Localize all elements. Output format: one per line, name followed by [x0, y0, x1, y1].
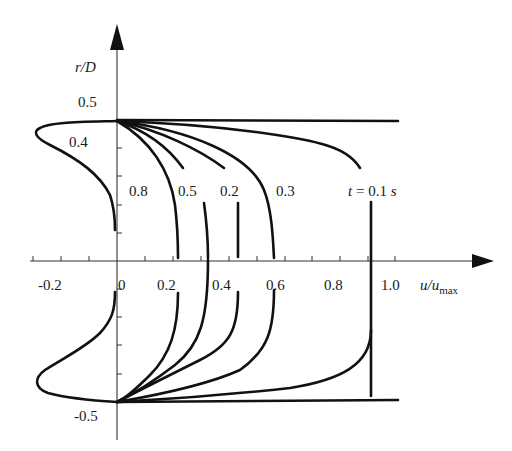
velocity-profile-chart: -0.2 0 0.2 0.4 0.6 0.8 1.0 u/umax r/D 0.… — [0, 0, 512, 451]
curve-t-0.5 — [204, 203, 208, 258]
curve-label-0.2: 0.2 — [220, 183, 239, 199]
x-axis-label: u/umax — [420, 277, 459, 296]
wall-top-line — [117, 120, 398, 121]
y-tick-label: 0.5 — [78, 94, 97, 110]
x-ticks — [33, 256, 395, 261]
y-axis-arrow-icon — [110, 24, 124, 50]
x-tick-label: 0.4 — [212, 277, 231, 293]
curve-label-0.3: 0.3 — [276, 183, 295, 199]
curve-label-0.5: 0.5 — [178, 183, 197, 199]
curve-t-0.4-backflow — [37, 292, 117, 402]
y-axis-label: r/D — [75, 59, 96, 75]
x-tick-label: 0.2 — [157, 277, 176, 293]
x-tick-label: 0.8 — [324, 277, 343, 293]
x-tick-label: 0 — [118, 277, 126, 293]
x-axis-arrow-icon — [472, 254, 494, 268]
x-tick-label: 0.6 — [266, 277, 285, 293]
y-tick-label: -0.5 — [74, 408, 98, 424]
curve-label-t-0.1s: t = 0.1 s — [348, 183, 397, 199]
x-tick-label: -0.2 — [38, 277, 62, 293]
curve-labels: 0.8 0.5 0.2 0.3 0.4 t = 0.1 s — [69, 134, 397, 199]
axes — [30, 24, 494, 440]
curve-label-0.4: 0.4 — [69, 134, 88, 150]
x-tick-label: 1.0 — [381, 277, 400, 293]
curve-label-0.8: 0.8 — [129, 183, 148, 199]
x-tick-labels: -0.2 0 0.2 0.4 0.6 0.8 1.0 — [38, 277, 400, 293]
